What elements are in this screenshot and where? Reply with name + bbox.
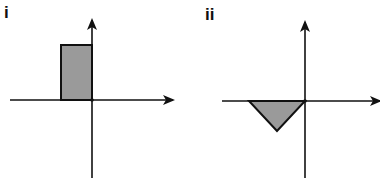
shaded-rectangle xyxy=(61,45,92,100)
origin-point xyxy=(303,99,307,103)
shaded-triangle xyxy=(249,101,305,131)
panel-ii xyxy=(222,22,380,178)
diagram-canvas xyxy=(0,0,380,178)
origin-point xyxy=(90,98,94,102)
panel-i xyxy=(10,20,173,178)
